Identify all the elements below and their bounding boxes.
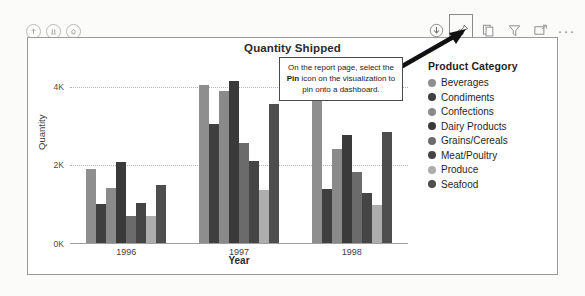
legend-color-swatch-icon: [428, 122, 436, 130]
bar[interactable]: [199, 85, 209, 244]
x-axis-title: Year: [70, 255, 408, 266]
legend-item[interactable]: Seafood: [428, 179, 553, 190]
legend-item-label: Meat/Poultry: [441, 150, 497, 161]
legend: Product Category BeveragesCondimentsConf…: [428, 60, 553, 193]
legend-item[interactable]: Meat/Poultry: [428, 150, 553, 161]
legend-item-label: Confections: [441, 106, 494, 117]
bar[interactable]: [322, 189, 332, 244]
bar-group: [86, 63, 166, 244]
legend-item-list: BeveragesCondimentsConfectionsDairy Prod…: [428, 77, 553, 190]
callout-text-before: On the report page, select the: [288, 63, 394, 72]
bar[interactable]: [106, 188, 116, 244]
bar[interactable]: [249, 161, 259, 244]
y-axis-title: Quantity: [36, 115, 47, 150]
y-axis-tick-label: 4K: [54, 82, 64, 92]
bar[interactable]: [259, 190, 269, 244]
bar[interactable]: [239, 143, 249, 244]
legend-item[interactable]: Beverages: [428, 77, 553, 88]
legend-color-swatch-icon: [428, 93, 436, 101]
bar[interactable]: [372, 205, 382, 244]
bar[interactable]: [116, 162, 126, 244]
legend-color-swatch-icon: [428, 180, 436, 188]
callout-text-after: icon on the visualization to pin onto a …: [299, 74, 395, 94]
legend-item-label: Condiments: [441, 92, 494, 103]
bar[interactable]: [229, 81, 239, 244]
bar[interactable]: [209, 124, 219, 244]
legend-item-label: Grains/Cereals: [441, 135, 508, 146]
bar[interactable]: [156, 185, 166, 244]
legend-color-swatch-icon: [428, 151, 436, 159]
x-axis-baseline: [70, 243, 408, 244]
legend-item-label: Beverages: [441, 77, 489, 88]
more-options-label: ···: [558, 26, 576, 36]
bar[interactable]: [96, 204, 106, 244]
bar[interactable]: [342, 135, 352, 244]
bar[interactable]: [382, 132, 392, 244]
callout-emphasis: Pin: [287, 74, 299, 83]
legend-item-label: Produce: [441, 164, 478, 175]
bar[interactable]: [126, 216, 136, 244]
legend-item[interactable]: Grains/Cereals: [428, 135, 553, 146]
y-axis-tick-label: 2K: [54, 160, 64, 170]
bar[interactable]: [219, 91, 229, 244]
chart-title: Quantity Shipped: [28, 42, 557, 54]
legend-item-label: Seafood: [441, 179, 478, 190]
legend-item[interactable]: Condiments: [428, 92, 553, 103]
more-options-icon[interactable]: ···: [558, 22, 575, 39]
legend-color-swatch-icon: [428, 108, 436, 116]
bar[interactable]: [269, 104, 279, 244]
legend-color-swatch-icon: [428, 79, 436, 87]
y-axis-tick-label: 0K: [54, 239, 64, 249]
bar[interactable]: [362, 193, 372, 244]
bar[interactable]: [146, 216, 156, 244]
legend-item[interactable]: Confections: [428, 106, 553, 117]
bar[interactable]: [136, 203, 146, 244]
bar[interactable]: [312, 88, 322, 244]
pin-instruction-callout: On the report page, select the Pin icon …: [279, 57, 403, 101]
bar[interactable]: [352, 172, 362, 244]
bar[interactable]: [332, 149, 342, 244]
legend-color-swatch-icon: [428, 166, 436, 174]
bar[interactable]: [86, 169, 96, 244]
legend-item[interactable]: Dairy Products: [428, 121, 553, 132]
legend-title: Product Category: [428, 60, 553, 72]
legend-item[interactable]: Produce: [428, 164, 553, 175]
legend-color-swatch-icon: [428, 137, 436, 145]
legend-item-label: Dairy Products: [441, 121, 507, 132]
bar-group: [199, 63, 279, 244]
